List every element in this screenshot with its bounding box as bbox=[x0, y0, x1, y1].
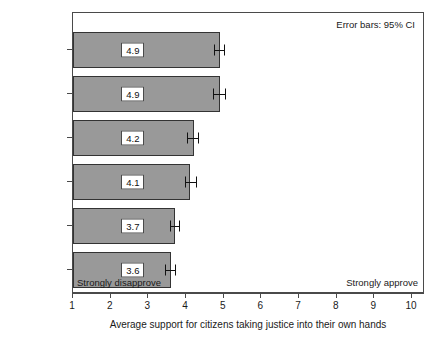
error-bar-cap-high bbox=[198, 133, 199, 144]
plot-area: Error bars: 95% CI 4.94.94.24.13.73.6 St… bbox=[72, 12, 424, 293]
error-bar bbox=[170, 221, 181, 232]
error-bar-cap-low bbox=[213, 89, 214, 100]
x-axis-tick bbox=[336, 293, 337, 298]
bar-row: 4.2 bbox=[73, 120, 425, 156]
value-label: 4.2 bbox=[121, 131, 144, 146]
value-label: 3.7 bbox=[121, 219, 144, 234]
x-axis-tick-label: 5 bbox=[211, 300, 235, 312]
bar-row: 4.9 bbox=[73, 32, 425, 68]
error-bar-cap-high bbox=[224, 45, 225, 56]
y-axis-tick bbox=[67, 93, 72, 94]
error-bar-cap-low bbox=[185, 177, 186, 188]
y-axis-tick bbox=[67, 269, 72, 270]
x-axis-tick-label: 10 bbox=[399, 300, 423, 312]
error-bar-cap-low bbox=[214, 45, 215, 56]
error-bar-cap-high bbox=[179, 221, 180, 232]
y-axis-tick bbox=[67, 225, 72, 226]
x-axis-tick-label: 8 bbox=[324, 300, 348, 312]
x-axis-tick bbox=[185, 293, 186, 298]
error-bar-cap-low bbox=[170, 221, 171, 232]
x-axis-line bbox=[72, 293, 424, 294]
y-axis-tick bbox=[67, 49, 72, 50]
error-bar bbox=[214, 45, 225, 56]
bar-el-salvador[interactable] bbox=[73, 76, 220, 112]
value-label: 3.6 bbox=[121, 263, 144, 278]
bar-row: 4.1 bbox=[73, 164, 425, 200]
x-axis-tick bbox=[147, 293, 148, 298]
x-axis-tick bbox=[110, 293, 111, 298]
x-axis-tick-label: 3 bbox=[135, 300, 159, 312]
error-bar bbox=[187, 133, 199, 144]
error-bar-cap-high bbox=[175, 265, 176, 276]
x-axis-tick bbox=[298, 293, 299, 298]
error-bar bbox=[185, 177, 196, 188]
bar-guatemala[interactable] bbox=[73, 32, 220, 68]
x-axis-tick-label: 9 bbox=[361, 300, 385, 312]
chart-container: Error bars: 95% CI 4.94.94.24.13.73.6 St… bbox=[0, 0, 440, 339]
x-axis-title: Average support for citizens taking just… bbox=[72, 319, 424, 330]
error-bar-cap-low bbox=[165, 265, 166, 276]
y-axis-tick bbox=[67, 181, 72, 182]
value-label: 4.1 bbox=[121, 175, 144, 190]
x-axis-tick-label: 4 bbox=[173, 300, 197, 312]
bar-row: 3.7 bbox=[73, 208, 425, 244]
x-axis-tick bbox=[72, 293, 73, 298]
error-bar-annotation: Error bars: 95% CI bbox=[336, 19, 415, 30]
x-axis-tick-label: 7 bbox=[286, 300, 310, 312]
bar-row: 4.9 bbox=[73, 76, 425, 112]
x-axis-tick bbox=[260, 293, 261, 298]
error-bar bbox=[213, 89, 226, 100]
value-label: 4.9 bbox=[121, 43, 144, 58]
x-axis-tick bbox=[223, 293, 224, 298]
scale-anchor-high: Strongly approve bbox=[346, 277, 418, 288]
value-label: 4.9 bbox=[121, 87, 144, 102]
error-bar-cap-high bbox=[225, 89, 226, 100]
error-bar bbox=[165, 265, 176, 276]
scale-anchor-low: Strongly disapprove bbox=[77, 277, 161, 288]
x-axis-tick bbox=[373, 293, 374, 298]
x-axis-tick-label: 6 bbox=[248, 300, 272, 312]
error-bar-cap-high bbox=[196, 177, 197, 188]
x-axis-tick-label: 1 bbox=[60, 300, 84, 312]
x-axis-tick-label: 2 bbox=[98, 300, 122, 312]
y-axis-tick bbox=[67, 137, 72, 138]
error-bar-cap-low bbox=[187, 133, 188, 144]
x-axis-tick bbox=[411, 293, 412, 298]
